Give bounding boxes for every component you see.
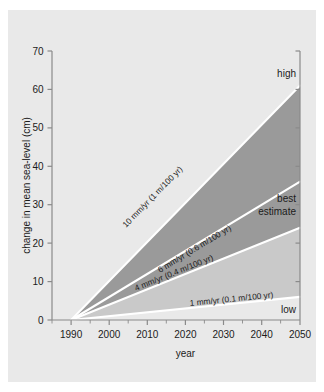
y-tick-label-70: 70 [32,46,44,57]
y-tick-label-20: 20 [32,238,44,249]
x-tick-label-2030: 2030 [212,329,235,340]
x-ticks: 1990 2000 2010 2020 2030 2040 [52,320,312,340]
y-tick-0: 0 [38,315,52,326]
x-tick-label-2000: 2000 [98,329,121,340]
y-tick-label-60: 60 [32,84,44,95]
x-axis-title: year [176,348,196,359]
x-tick-2030: 2030 [212,320,235,340]
x-tick-2010: 2010 [136,320,159,340]
sea-level-projection-chart: 70 60 50 40 30 [8,10,316,382]
x-tick-2040: 2040 [251,320,274,340]
y-tick-label-10: 10 [32,276,44,287]
x-tick-1990: 1990 [60,320,83,340]
x-tick-label-2040: 2040 [251,329,274,340]
y-tick-label-0: 0 [38,315,44,326]
x-tick-label-1990: 1990 [60,329,83,340]
annotation-low: low [281,304,297,315]
x-tick-label-2020: 2020 [174,329,197,340]
y-tick-label-50: 50 [32,122,44,133]
y-tick-label-40: 40 [32,161,44,172]
annotation-high: high [277,68,296,79]
figure-panel: 70 60 50 40 30 [8,10,316,382]
x-tick-label-2050: 2050 [289,329,312,340]
annotation-best: best [277,193,296,204]
x-tick-2050: 2050 [289,320,312,340]
y-tick-label-30: 30 [32,199,44,210]
annotation-estimate: estimate [258,206,296,217]
x-tick-2000: 2000 [98,320,121,340]
x-tick-label-2010: 2010 [136,329,159,340]
y-axis-title: change in mean sea-level (cm) [21,117,32,254]
x-tick-2020: 2020 [174,320,197,340]
y-tick-60: 60 [32,84,300,95]
y-tick-70: 70 [32,46,300,57]
